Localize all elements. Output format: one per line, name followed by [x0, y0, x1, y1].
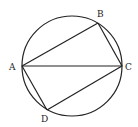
diagram-canvas: A B C D: [0, 0, 138, 127]
label-b: B: [97, 9, 104, 19]
segment-ab: [22, 23, 98, 66]
segment-bc: [98, 23, 122, 66]
label-c: C: [125, 62, 132, 72]
segment-da: [22, 66, 47, 110]
label-a: A: [8, 62, 16, 72]
segment-cd: [47, 66, 122, 110]
label-d: D: [41, 114, 48, 124]
